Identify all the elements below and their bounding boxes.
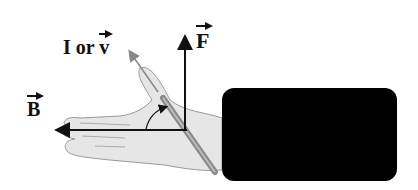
hand-illustration bbox=[62, 67, 222, 170]
redaction-box bbox=[222, 88, 397, 181]
force-label: F bbox=[196, 28, 209, 54]
current-velocity-label: I or v bbox=[63, 36, 109, 59]
field-label: B bbox=[27, 98, 40, 121]
